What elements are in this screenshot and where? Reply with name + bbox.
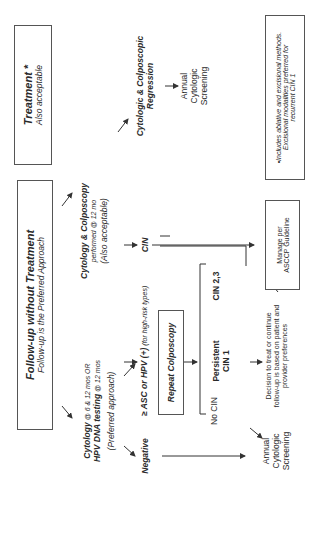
hpv-label: HPV DNA testing: [92, 394, 102, 462]
annual-screening-top: Annual Cytologic Screening: [180, 56, 209, 116]
cin1-label: CIN 1: [222, 336, 232, 386]
decision-line3: provider preferences: [281, 296, 289, 416]
cin23-node: CIN 2,3: [212, 261, 222, 311]
cytology-colposcopy-interval: performed @ 12 mo: [90, 176, 98, 286]
decision-line2: follow-up is based on patient and: [273, 296, 281, 416]
followup-title: Follow-up without Treatment: [24, 230, 36, 380]
persistent-cin1-node: Persistent CIN 1: [212, 336, 232, 386]
cytology-colposcopy-node: Cytology & Colposcopy performed @ 12 mo …: [80, 176, 110, 286]
manage-line2: ASCCP Guideline: [283, 217, 290, 273]
regression-line2: Regression: [146, 26, 156, 146]
footnote-box: •Includes ablative and excisional method…: [265, 15, 305, 180]
treatment-box: Treatment * Also acceptable: [14, 25, 52, 165]
footnote-line2: Excisional modalities preferred for: [282, 45, 289, 150]
negative-node: Negative: [141, 426, 151, 486]
high-risk-note: (for high-risk types): [141, 286, 148, 348]
manage-asccp-box: Manage per ASCCP Guideline: [265, 200, 300, 290]
treatment-title: Treatment *: [22, 65, 34, 125]
followup-box: Follow-up without Treatment Follow-up is…: [17, 180, 53, 430]
asc-hpv-label: ≥ ASC or HPV (+): [139, 348, 149, 416]
annual-screening-bottom: Annual Cytologic Screening: [262, 421, 291, 481]
followup-subtitle: Follow-up is the Preferred Approach: [36, 237, 46, 373]
cytology-interval: @ 6 & 12 mos OR: [84, 363, 91, 422]
cytology-label: Cytology: [82, 422, 92, 458]
decision-line1: Decision to treat or continue: [265, 296, 273, 416]
asc-hpv-node: ≥ ASC or HPV (+) (for high-risk types): [140, 226, 150, 416]
footnote-line3: recurrent CIN 1: [289, 74, 296, 122]
regression-node: Cytologic & Colposcopic Regression: [136, 26, 156, 146]
repeat-colposcopy-box: Repeat Colposcopy: [158, 310, 184, 415]
hpv-interval: @ 12 mos: [94, 360, 101, 394]
cytology-hpv-node: Cytology @ 6 & 12 mos OR HPV DNA testing…: [83, 356, 116, 466]
also-acceptable-note: (Also acceptable): [100, 176, 110, 286]
footnote-line1: •Includes ablative and excisional method…: [275, 32, 282, 164]
decision-note: Decision to treat or continue follow-up …: [265, 296, 289, 416]
flowchart-diagram: Treatment * Also acceptable Follow-up wi…: [0, 0, 314, 536]
no-cin-node: No CIN: [210, 386, 220, 436]
repeat-colposcopy-label: Repeat Colposcopy: [166, 323, 176, 402]
manage-line1: Manage per: [276, 226, 283, 263]
treatment-subtitle: Also acceptable: [34, 65, 44, 125]
annual-top-line3: Screening: [200, 56, 210, 116]
annual-bottom-line3: Screening: [282, 421, 292, 481]
cytology-colposcopy-title: Cytology & Colposcopy: [80, 176, 90, 286]
preferred-approach-note: (Preferred approach): [107, 356, 117, 466]
